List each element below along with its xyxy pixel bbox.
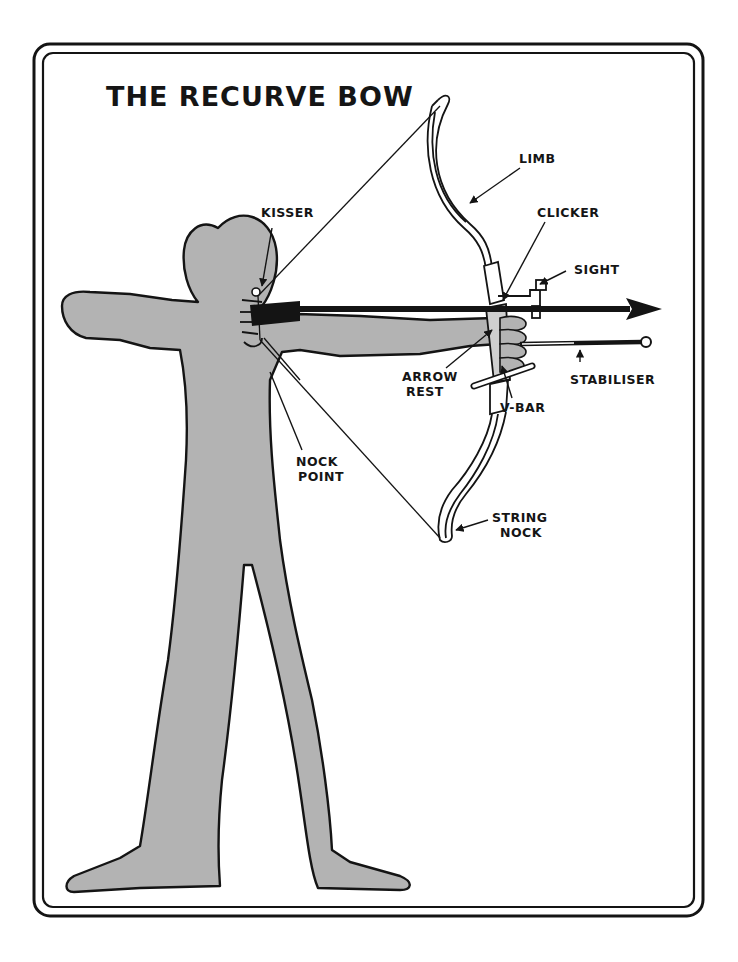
label-nock-point-line2: POINT bbox=[298, 469, 344, 484]
bow-upper-limb bbox=[428, 96, 492, 270]
label-arrow-rest-line2: REST bbox=[406, 384, 444, 399]
label-sight: SIGHT bbox=[574, 262, 619, 277]
label-string-nock-line1: STRING bbox=[492, 510, 548, 525]
recurve-bow-diagram: THE RECURVE BOW bbox=[0, 0, 738, 962]
label-stabiliser: STABILISER bbox=[570, 372, 655, 387]
outer-frame bbox=[34, 44, 703, 916]
label-kisser: KISSER bbox=[261, 205, 314, 220]
label-v-bar: V-BAR bbox=[500, 400, 545, 415]
label-string-nock-line2: NOCK bbox=[500, 525, 543, 540]
stabiliser-rod bbox=[520, 337, 651, 347]
kisser-bead bbox=[252, 288, 260, 296]
label-limb: LIMB bbox=[519, 151, 556, 166]
diagram-title: THE RECURVE BOW bbox=[106, 81, 414, 112]
label-arrow-rest-line1: ARROW bbox=[402, 369, 458, 384]
label-clicker: CLICKER bbox=[537, 205, 599, 220]
label-nock-point-line1: NOCK bbox=[296, 454, 339, 469]
